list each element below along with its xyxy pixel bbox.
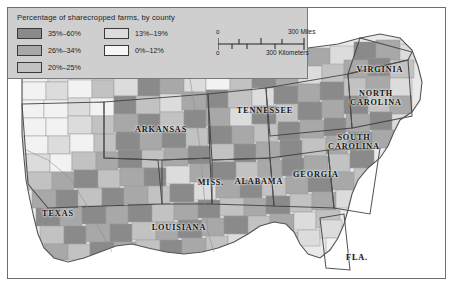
legend-item: 35%–60% [17, 27, 81, 40]
legend-item: 20%–25% [17, 61, 81, 74]
map-figure: Percentage of sharecropped farms, by cou… [0, 0, 453, 286]
legend-swatch [104, 28, 129, 39]
legend-title: Percentage of sharecropped farms, by cou… [17, 13, 175, 22]
legend-item: 13%–19% [104, 27, 168, 40]
legend-label: 13%–19% [135, 29, 168, 38]
legend-column-2: 13%–19% 0%–12% [104, 27, 168, 61]
legend-item: 0%–12% [104, 44, 168, 57]
legend-label: 35%–60% [48, 29, 81, 38]
map-panel: Percentage of sharecropped farms, by cou… [7, 7, 446, 279]
legend-label: 26%–34% [48, 46, 81, 55]
legend-item: 26%–34% [17, 44, 81, 57]
scale-km-zero: 0 [216, 49, 219, 56]
scale-miles-max: 300 Miles [288, 28, 315, 35]
map-legend: Percentage of sharecropped farms, by cou… [8, 8, 308, 79]
legend-swatch [17, 62, 42, 73]
legend-swatch [17, 45, 42, 56]
legend-column-1: 35%–60% 26%–34% 20%–25% [17, 27, 81, 78]
scale-bar: 0 300 Miles 0 300 Kilometers [216, 28, 336, 70]
legend-swatch [104, 45, 129, 56]
scale-miles-zero: 0 [216, 28, 219, 35]
legend-label: 20%–25% [48, 63, 81, 72]
legend-swatch [17, 28, 42, 39]
legend-label: 0%–12% [135, 46, 164, 55]
scale-km-max: 300 Kilometers [266, 49, 309, 56]
